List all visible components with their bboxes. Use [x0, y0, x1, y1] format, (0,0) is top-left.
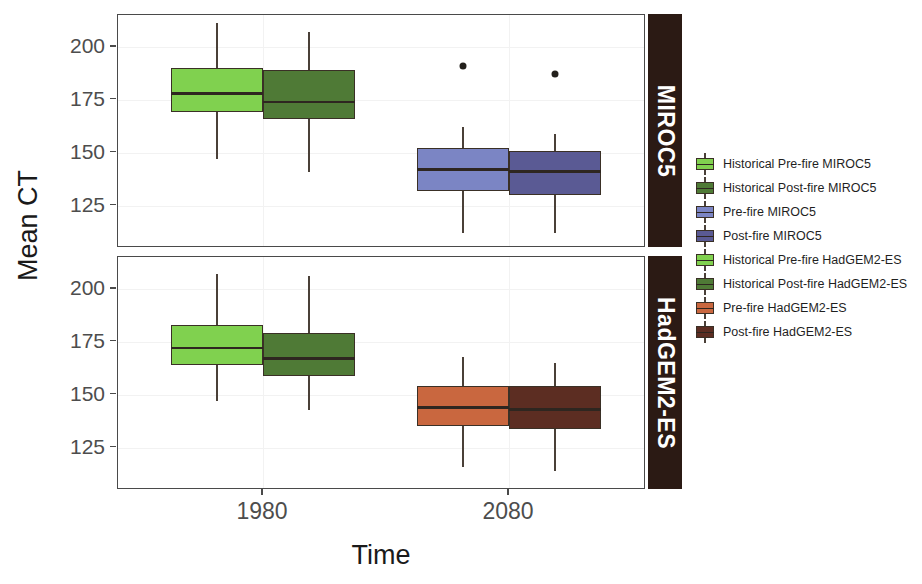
legend-item: Pre-fire HadGEM2-ES	[694, 296, 922, 320]
boxplot-figure: Mean CT Time 200175150125200175150125 19…	[0, 0, 922, 584]
strip-label-miroc5-text: MIROC5	[652, 84, 679, 176]
boxplot-outlier-point	[552, 71, 559, 78]
boxplot-whisker-upper	[554, 134, 556, 151]
boxplot-whisker-upper	[462, 127, 464, 148]
legend-key-boxplot-icon	[694, 297, 716, 319]
y-axis-tick-mark	[110, 287, 116, 289]
gridline-vertical	[509, 15, 510, 246]
x-axis-tick-mark	[261, 489, 263, 495]
boxplot-whisker-upper	[462, 357, 464, 387]
legend-item-label: Historical Pre-fire HadGEM2-ES	[723, 253, 902, 267]
legend: Historical Pre-fire MIROC5Historical Pos…	[694, 152, 922, 344]
boxplot-whisker-upper	[308, 276, 310, 333]
legend-item: Post-fire MIROC5	[694, 224, 922, 248]
boxplot-whisker-lower	[216, 112, 218, 159]
boxplot-whisker-lower	[308, 119, 310, 172]
y-axis-tick-mark	[110, 204, 116, 206]
boxplot-median-line	[509, 170, 601, 173]
strip-label-hadgem2-es: HadGEM2-ES	[648, 256, 682, 489]
y-axis-tick-mark	[110, 45, 116, 47]
gridline-horizontal	[118, 206, 644, 207]
legend-key-boxplot-icon	[694, 321, 716, 343]
panel-miroc5-plot-area	[118, 15, 644, 246]
panel-hadgem2-es	[117, 256, 645, 489]
x-axis-tick-label: 2080	[448, 498, 568, 525]
boxplot-whisker-upper	[216, 274, 218, 325]
x-axis-tick-label: 1980	[202, 498, 322, 525]
boxplot-box	[171, 325, 263, 365]
legend-item: Historical Pre-fire HadGEM2-ES	[694, 248, 922, 272]
legend-key-boxplot-icon	[694, 225, 716, 247]
legend-item: Historical Post-fire HadGEM2-ES	[694, 272, 922, 296]
y-axis-tick-label: 175	[0, 87, 105, 111]
legend-item-label: Pre-fire MIROC5	[723, 205, 816, 219]
gridline-vertical	[509, 257, 510, 488]
boxplot-median-line	[171, 92, 263, 95]
legend-key-boxplot-icon	[694, 177, 716, 199]
boxplot-whisker-upper	[216, 23, 218, 67]
boxplot-median-line	[263, 101, 355, 104]
legend-item-label: Historical Pre-fire MIROC5	[723, 157, 871, 171]
boxplot-box	[263, 70, 355, 119]
boxplot-median-line	[417, 406, 509, 409]
legend-key-boxplot-icon	[694, 153, 716, 175]
y-axis-tick-label: 175	[0, 329, 105, 353]
legend-item: Pre-fire MIROC5	[694, 200, 922, 224]
legend-key-boxplot-icon	[694, 273, 716, 295]
gridline-horizontal	[118, 47, 644, 48]
legend-item-label: Post-fire HadGEM2-ES	[723, 325, 852, 339]
gridline-horizontal	[118, 289, 644, 290]
y-axis-tick-mark	[110, 151, 116, 153]
strip-label-hadgem2-es-text: HadGEM2-ES	[652, 297, 679, 449]
y-axis-tick-label: 125	[0, 193, 105, 217]
y-axis-tick-label: 150	[0, 382, 105, 406]
boxplot-whisker-upper	[554, 363, 556, 386]
boxplot-median-line	[509, 408, 601, 411]
legend-item-label: Post-fire MIROC5	[723, 229, 822, 243]
boxplot-whisker-lower	[308, 376, 310, 410]
gridline-horizontal	[118, 448, 644, 449]
boxplot-median-line	[263, 357, 355, 360]
strip-label-miroc5: MIROC5	[648, 14, 682, 247]
boxplot-outlier-point	[460, 62, 467, 69]
boxplot-box	[263, 333, 355, 375]
y-axis-tick-mark	[110, 340, 116, 342]
y-axis-tick-mark	[110, 98, 116, 100]
boxplot-whisker-lower	[462, 426, 464, 466]
y-axis-tick-label: 125	[0, 435, 105, 459]
boxplot-whisker-upper	[308, 32, 310, 70]
boxplot-whisker-lower	[554, 195, 556, 233]
legend-item-label: Pre-fire HadGEM2-ES	[723, 301, 847, 315]
y-axis-tick-label: 200	[0, 34, 105, 58]
boxplot-whisker-lower	[462, 191, 464, 233]
panel-miroc5	[117, 14, 645, 247]
gridline-vertical	[263, 15, 264, 246]
boxplot-box	[171, 68, 263, 112]
legend-item-label: Historical Post-fire HadGEM2-ES	[723, 277, 907, 291]
legend-item-label: Historical Post-fire MIROC5	[723, 181, 877, 195]
boxplot-median-line	[417, 168, 509, 171]
x-axis-title: Time	[117, 540, 645, 571]
legend-key-boxplot-icon	[694, 201, 716, 223]
y-axis-tick-label: 150	[0, 140, 105, 164]
boxplot-whisker-lower	[554, 429, 556, 471]
boxplot-whisker-lower	[216, 365, 218, 401]
legend-item: Historical Pre-fire MIROC5	[694, 152, 922, 176]
legend-item: Post-fire HadGEM2-ES	[694, 320, 922, 344]
legend-item: Historical Post-fire MIROC5	[694, 176, 922, 200]
x-axis-tick-mark	[507, 489, 509, 495]
legend-key-boxplot-icon	[694, 249, 716, 271]
y-axis-tick-mark	[110, 393, 116, 395]
boxplot-median-line	[171, 347, 263, 350]
panel-hadgem2-es-plot-area	[118, 257, 644, 488]
y-axis-tick-mark	[110, 446, 116, 448]
y-axis-tick-label: 200	[0, 276, 105, 300]
